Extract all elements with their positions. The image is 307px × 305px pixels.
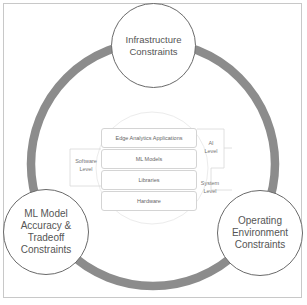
infrastructure-constraints-label: Infrastructure Constraints (126, 34, 182, 57)
layer-hardware: Hardware (101, 191, 197, 211)
layer-libraries: Libraries (101, 170, 197, 190)
edge-stack: Edge Analytics Applications ML Models Li… (101, 128, 197, 212)
layer-edge-analytics-applications: Edge Analytics Applications (101, 128, 197, 148)
ml-model-constraints-label: ML Model Accuracy & Tradeoff Constraints (21, 208, 72, 256)
system-level-label: System Level (196, 180, 224, 195)
ml-model-constraints-node: ML Model Accuracy & Tradeoff Constraints (3, 189, 89, 275)
ai-level-label: AI Level (198, 140, 224, 155)
operating-environment-constraints-label: Operating Environment Constraints (232, 215, 288, 251)
layer-ml-models: ML Models (101, 149, 197, 169)
infrastructure-constraints-node: Infrastructure Constraints (111, 3, 196, 88)
software-level-label: Software Level (72, 158, 100, 173)
operating-environment-constraints-node: Operating Environment Constraints (217, 190, 303, 276)
